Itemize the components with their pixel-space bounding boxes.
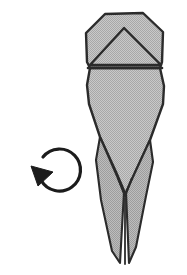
origami-diagram-canvas: [0, 0, 187, 275]
paper-model: [86, 13, 164, 264]
upper-hexagon-panel: [86, 13, 163, 68]
rotate-counterclockwise-arrow: [31, 149, 80, 191]
origami-figure: Origami step diagram: tapered flap model…: [0, 0, 187, 275]
